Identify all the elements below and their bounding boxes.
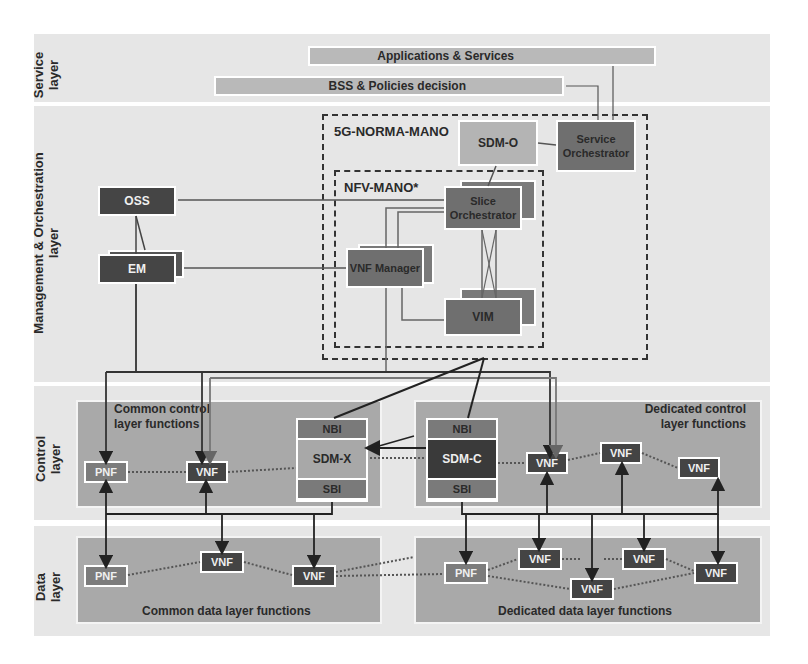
bss-policies-bar: BSS & Policies decision <box>214 76 564 96</box>
control-dedicated-vnf-1[interactable]: VNF <box>526 452 568 474</box>
slice-orchestrator-box[interactable]: Slice Orchestrator <box>444 186 522 230</box>
sdm-x-stack[interactable]: NBI SDM-X SBI <box>296 418 368 502</box>
data-common-pnf[interactable]: PNF <box>84 565 128 587</box>
data-common-vnf-2[interactable]: VNF <box>292 565 336 587</box>
vim-box[interactable]: VIM <box>444 298 522 336</box>
data-dedicated-pnf[interactable]: PNF <box>444 562 488 584</box>
applications-services-bar: Applications & Services <box>308 46 656 66</box>
em-box[interactable]: EM <box>98 254 176 284</box>
common-data-label: Common data layer functions <box>142 604 311 619</box>
norma-mano-title: 5G-NORMA-MANO <box>334 124 449 139</box>
sdm-x-nbi: NBI <box>298 420 366 438</box>
oss-box[interactable]: OSS <box>98 186 176 216</box>
sdm-o-box[interactable]: SDM-O <box>458 120 538 166</box>
sdm-x-sbi: SBI <box>298 480 366 498</box>
control-layer-label: Control layer <box>33 431 63 487</box>
data-dedicated-vnf-4[interactable]: VNF <box>694 562 738 584</box>
control-common-vnf[interactable]: VNF <box>186 461 228 483</box>
service-orchestrator-box[interactable]: Service Orchestrator <box>556 120 636 172</box>
control-dedicated-vnf-2[interactable]: VNF <box>600 442 642 464</box>
mano-layer-label: Management & Orchestration layer <box>31 143 61 343</box>
vnf-manager-box[interactable]: VNF Manager <box>346 248 424 288</box>
common-control-label: Common control layer functions <box>114 402 214 432</box>
nfv-mano-title: NFV-MANO* <box>344 180 418 195</box>
data-layer-label: Data layer <box>33 563 63 611</box>
sdm-x-name: SDM-X <box>298 440 366 478</box>
data-dedicated-vnf-3[interactable]: VNF <box>622 548 666 570</box>
control-pnf[interactable]: PNF <box>84 461 128 483</box>
dedicated-data-label: Dedicated data layer functions <box>498 604 672 619</box>
data-dedicated-vnf-2[interactable]: VNF <box>570 578 614 600</box>
data-common-vnf-1[interactable]: VNF <box>200 551 244 573</box>
sdm-c-nbi: NBI <box>428 420 496 438</box>
sdm-c-sbi: SBI <box>428 480 496 498</box>
dedicated-control-label: Dedicated control layer functions <box>630 402 746 432</box>
sdm-c-name: SDM-C <box>428 440 496 478</box>
sdm-c-stack[interactable]: NBI SDM-C SBI <box>426 418 498 502</box>
data-dedicated-vnf-1[interactable]: VNF <box>518 548 562 570</box>
control-dedicated-vnf-3[interactable]: VNF <box>678 457 720 479</box>
service-layer-label: Service layer <box>31 45 61 105</box>
